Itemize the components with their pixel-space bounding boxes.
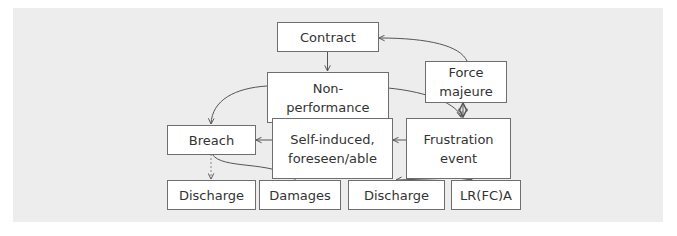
edge-nonperformance-to-breach [211,86,267,124]
node-discharge-frustration: Discharge [348,180,445,210]
node-frustration-event: Frustration event [406,118,511,179]
edge-forcemajeure-to-contract [379,38,467,61]
node-force-majeure: Force majeure [425,61,507,103]
contract-flow-diagram: Contract Force majeure Non- performance … [0,0,677,236]
node-breach: Breach [167,125,256,155]
node-discharge-breach: Discharge [167,180,256,210]
node-lrfca: LR(FC)A [451,180,521,210]
node-contract: Contract [277,22,379,52]
node-self-induced: Self-induced, foreseen/able [272,118,393,179]
node-non-performance: Non- performance [267,72,389,123]
node-damages: Damages [259,180,341,210]
